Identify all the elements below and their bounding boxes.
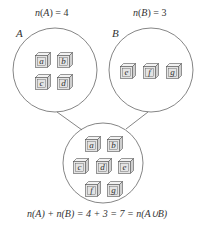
fn-n: n — [35, 7, 40, 18]
element-cube: g — [166, 63, 182, 79]
cube-letter: e — [119, 162, 130, 173]
element-cube: e — [118, 158, 134, 174]
cube-letter: f — [144, 67, 155, 78]
element-cube: a — [35, 52, 51, 68]
element-cube: c — [73, 158, 89, 174]
count-b-value: = 3 — [151, 7, 167, 18]
cube-letter: d — [58, 78, 69, 89]
element-cube: d — [57, 74, 73, 90]
element-cube: b — [107, 136, 123, 152]
diagram-shapes — [0, 0, 205, 228]
element-cube: a — [85, 136, 101, 152]
cube-letter: b — [108, 140, 119, 151]
cube-letter: g — [108, 185, 119, 196]
cube-letter: a — [36, 56, 47, 67]
fn-n: n — [133, 7, 138, 18]
set-b-arg: B — [141, 7, 147, 18]
set-a-circle — [13, 28, 97, 112]
count-a-value: = 4 — [53, 7, 69, 18]
cube-letter: a — [86, 140, 97, 151]
connector-line-left — [57, 112, 82, 130]
element-cube: f — [143, 63, 159, 79]
cube-letter: e — [121, 67, 132, 78]
set-b-label: B — [112, 27, 119, 39]
element-cube: g — [107, 181, 123, 197]
element-cube: c — [35, 74, 51, 90]
count-b-label: n(B) = 3 — [133, 7, 166, 18]
set-a-label: A — [16, 27, 23, 39]
set-a-arg: A — [43, 7, 49, 18]
connector-line-right — [126, 112, 148, 129]
count-a-label: n(A) = 4 — [35, 7, 68, 18]
element-cube: b — [57, 52, 73, 68]
union-of-sets-diagram: n(A) = 4 n(B) = 3 A B abcdefgabcdefg n(A… — [0, 0, 205, 228]
cube-letter: c — [74, 162, 85, 173]
element-cube: f — [85, 181, 101, 197]
cube-letter: f — [86, 185, 97, 196]
cube-letter: c — [36, 78, 47, 89]
cube-letter: b — [58, 56, 69, 67]
element-cube: e — [120, 63, 136, 79]
union-equation: n(A) + n(B) = 4 + 3 = 7 = n(A∪B) — [27, 208, 167, 219]
element-cube: d — [96, 158, 112, 174]
cube-letter: g — [167, 67, 178, 78]
cube-letter: d — [97, 162, 108, 173]
